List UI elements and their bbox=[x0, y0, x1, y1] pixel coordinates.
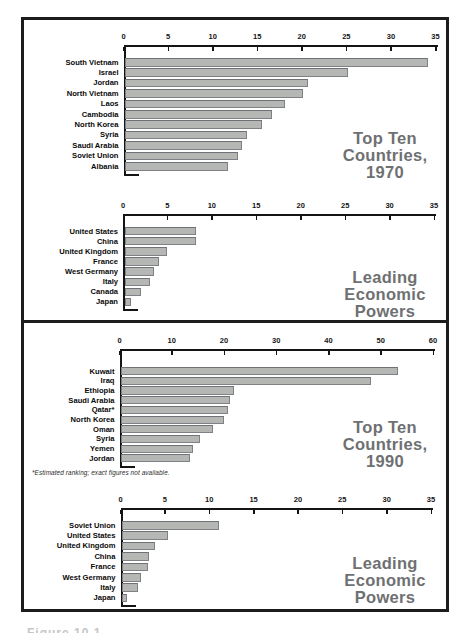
figure-caption-partial: Figure 10.1 bbox=[27, 626, 187, 633]
estimated-ranking-footnote: *Estimated ranking; exact figures not av… bbox=[32, 469, 170, 476]
panel-divider-line bbox=[21, 320, 449, 323]
figure-outer-border bbox=[21, 17, 449, 612]
